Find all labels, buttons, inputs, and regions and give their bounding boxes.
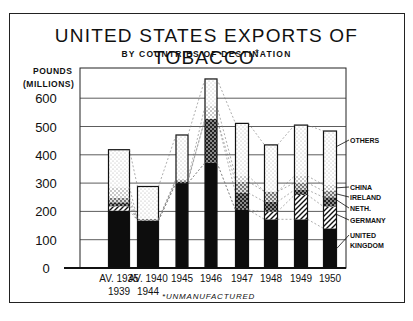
segment-china [236, 176, 249, 182]
connector-line [249, 176, 265, 192]
legend-leader [337, 215, 349, 220]
legend-label: CHINA [350, 184, 372, 191]
legend-leader [337, 140, 349, 146]
connector-line [278, 195, 295, 212]
segment-ireland [265, 192, 278, 202]
segment-china [109, 187, 130, 197]
connector-line [308, 183, 324, 191]
connector-line [159, 179, 177, 219]
segment-united-kingdom [205, 163, 217, 268]
bar-av-1940-1944 [138, 186, 159, 268]
segment-neth- [295, 190, 308, 195]
x-tick-label: AV. 1940 [128, 273, 168, 284]
y-tick-label: 500 [35, 120, 57, 135]
y-tick-label: 400 [35, 148, 57, 163]
segment-neth- [236, 193, 249, 210]
segment-others [324, 131, 337, 185]
connector-line [308, 125, 324, 131]
segment-neth- [265, 202, 278, 212]
segment-germany [265, 212, 278, 220]
x-tick-label: 1945 [171, 273, 194, 284]
y-tick-label: 200 [35, 204, 57, 219]
segment-united-kingdom [236, 210, 249, 268]
connector-line [308, 190, 324, 197]
y-tick-label: 100 [35, 233, 57, 248]
legend-label: GERMANY [350, 217, 386, 224]
footnote: *UNMANUFACTURED [162, 292, 255, 301]
bar-1946 [205, 79, 217, 268]
x-tick-label: 1939 [108, 286, 131, 297]
segment-others [295, 125, 308, 176]
segment-others [109, 150, 130, 188]
segment-others [138, 186, 159, 219]
connector-line [278, 125, 295, 145]
legend-leader [337, 200, 349, 208]
segment-neth- [205, 119, 217, 163]
bar-1950 [324, 131, 337, 268]
segment-china [205, 106, 217, 119]
connector-line [159, 135, 177, 187]
legend-label: OTHERS [350, 137, 380, 144]
connector-line [130, 187, 138, 219]
x-tick-label: 1946 [200, 273, 223, 284]
connector-line [308, 195, 324, 207]
segment-united-kingdom [138, 220, 159, 268]
connector-line [130, 150, 138, 187]
segment-ireland [324, 191, 337, 197]
bar-1945 [176, 135, 188, 268]
y-tick-label: 300 [35, 176, 57, 191]
connector-line [217, 119, 236, 193]
bar-1949 [295, 125, 308, 268]
x-tick-label: 1947 [231, 273, 254, 284]
segment-germany [324, 207, 337, 229]
bar-1948 [265, 145, 278, 268]
segment-others [205, 79, 217, 106]
connector-line [308, 219, 324, 228]
x-tick-label: 1948 [260, 273, 283, 284]
connector-line [278, 190, 295, 202]
legend-label: NETH. [350, 205, 371, 212]
bar-1947 [236, 123, 249, 268]
segment-ireland [295, 183, 308, 190]
stacked-bar-chart: 0100200300400500600AV. 19351939AV. 19401… [0, 0, 413, 321]
segment-ireland [176, 180, 188, 181]
segment-china [324, 185, 337, 191]
connector-line [278, 183, 295, 192]
segment-neth- [176, 182, 188, 183]
segment-united-kingdom [176, 183, 188, 268]
legend-leader [337, 235, 349, 248]
legend-leader [337, 194, 349, 197]
legend-label: IRELAND [350, 194, 381, 201]
x-tick-label: 1950 [319, 273, 342, 284]
segment-others [176, 135, 188, 179]
connector-line [188, 106, 205, 179]
segment-united-kingdom [265, 219, 278, 268]
segment-ireland [138, 219, 159, 220]
bar-av-1935-1939 [109, 150, 130, 268]
segment-china [295, 176, 308, 183]
x-tick-label: 1949 [290, 273, 313, 284]
connector-line [217, 79, 236, 123]
legend-label: UNITED [350, 232, 376, 239]
segment-others [265, 145, 278, 192]
segment-united-kingdom [295, 219, 308, 268]
segment-united-kingdom [109, 211, 130, 268]
segment-germany [109, 206, 130, 210]
segment-ireland [236, 182, 249, 193]
segment-china [176, 179, 188, 180]
segment-ireland [109, 198, 130, 203]
segment-united-kingdom [324, 228, 337, 268]
connector-line [249, 193, 265, 202]
connector-line [130, 198, 138, 219]
segment-neth- [109, 202, 130, 206]
connector-line [217, 119, 236, 182]
x-tick-label: 1944 [137, 286, 160, 297]
y-tick-label: 0 [42, 261, 49, 276]
segment-germany [295, 195, 308, 219]
segment-others [236, 123, 249, 176]
segment-neth- [324, 197, 337, 206]
connector-line [159, 182, 177, 221]
legend-label: KINGDOM [350, 242, 384, 249]
connector-line [217, 163, 236, 210]
legend-leader [337, 187, 349, 188]
